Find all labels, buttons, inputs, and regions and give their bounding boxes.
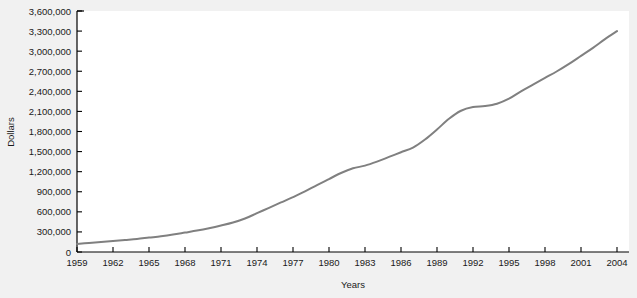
y-tick-label: 1,200,000 [29, 166, 71, 177]
x-tick-label: 1959 [66, 257, 87, 268]
chart-figure: 0300,000600,000900,0001,200,0001,500,000… [0, 0, 637, 298]
x-axis-title: Years [341, 279, 365, 290]
y-tick-label: 600,000 [37, 206, 71, 217]
y-tick-label: 2,700,000 [29, 66, 71, 77]
x-tick-label: 2004 [606, 257, 627, 268]
x-tick-label: 1989 [426, 257, 447, 268]
y-tick-label: 0 [66, 247, 71, 258]
x-tick-label: 1992 [462, 257, 483, 268]
x-tick-label: 1971 [210, 257, 231, 268]
x-tick-label: 1983 [354, 257, 375, 268]
y-tick-label: 3,000,000 [29, 46, 71, 57]
x-tick-label: 1962 [102, 257, 123, 268]
x-tick-label: 1968 [174, 257, 195, 268]
y-tick-label: 900,000 [37, 186, 71, 197]
plot-area-background [77, 11, 629, 252]
y-axis-title: Dollars [5, 117, 16, 147]
x-tick-label: 1974 [246, 257, 267, 268]
y-tick-label: 1,800,000 [29, 126, 71, 137]
y-tick-label: 1,500,000 [29, 146, 71, 157]
y-tick-label: 3,600,000 [29, 6, 71, 17]
x-tick-label: 2001 [570, 257, 591, 268]
x-tick-label: 1977 [282, 257, 303, 268]
y-tick-label: 300,000 [37, 226, 71, 237]
y-tick-label: 3,300,000 [29, 26, 71, 37]
x-tick-label: 1986 [390, 257, 411, 268]
x-tick-label: 1965 [138, 257, 159, 268]
line-chart: 0300,000600,000900,0001,200,0001,500,000… [0, 0, 637, 298]
y-tick-label: 2,100,000 [29, 106, 71, 117]
x-tick-label: 1998 [534, 257, 555, 268]
x-tick-label: 1995 [498, 257, 519, 268]
y-tick-label: 2,400,000 [29, 86, 71, 97]
x-tick-label: 1980 [318, 257, 339, 268]
